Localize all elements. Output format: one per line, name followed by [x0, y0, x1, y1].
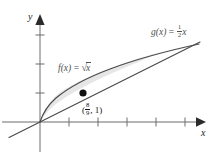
x-axis-label: x: [201, 128, 205, 138]
radical-sqrt-x: √x: [82, 63, 92, 73]
paren-close: ): [99, 105, 102, 115]
function-name-f: f(x): [58, 63, 71, 73]
function-label-g: g(x)=12x: [151, 24, 186, 39]
x-axis-arrowhead: [196, 117, 206, 127]
curve-g-linear: [9, 42, 200, 138]
equals-sign-f: =: [71, 63, 81, 73]
y-axis-label: y: [28, 12, 32, 22]
point-coordinate-label: (89, 1): [82, 102, 102, 117]
radicand: x: [86, 62, 91, 73]
equals-sign-g: =: [166, 27, 176, 37]
y-axis-arrowhead: [35, 14, 44, 25]
function-name-g: g(x): [151, 27, 166, 37]
math-figure: y x g(x)=12x f(x)=√x (89, 1): [0, 0, 211, 159]
function-label-f: f(x)=√x: [58, 63, 91, 74]
marked-point-dot: [79, 89, 86, 96]
variable-x-g: x: [182, 27, 186, 37]
